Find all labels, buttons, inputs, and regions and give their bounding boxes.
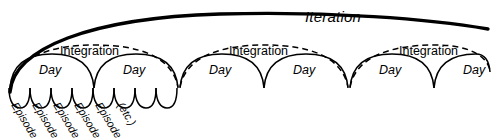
iteration-label: Iteration <box>305 9 361 24</box>
day-label-1: Day <box>39 64 61 77</box>
episode-arc-7 <box>135 88 156 108</box>
episode-arc-8 <box>156 88 177 108</box>
diagram-canvas: Iteration Integration Integration Integr… <box>0 0 492 140</box>
integration-label-3: Integration <box>399 45 458 58</box>
day-label-5: Day <box>379 64 401 77</box>
integration-label-1: Integration <box>60 45 119 58</box>
day-label-3: Day <box>209 64 231 77</box>
day-label-6: Day <box>463 64 485 77</box>
day-label-4: Day <box>293 64 315 77</box>
day-label-2: Day <box>123 64 145 77</box>
integration-label-2: Integration <box>229 45 288 58</box>
